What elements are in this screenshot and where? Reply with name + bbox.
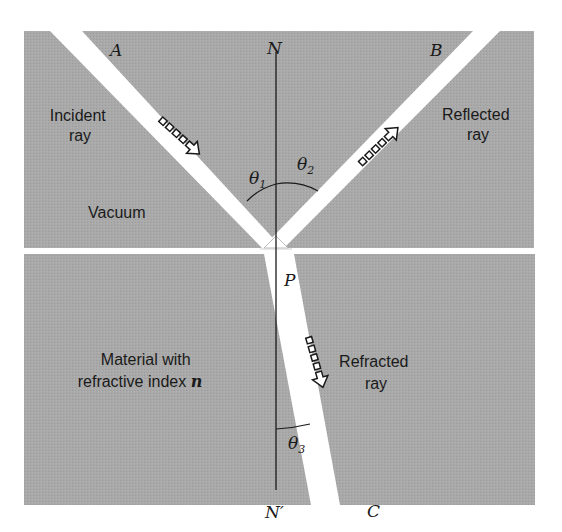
- point-label-n-prime: N′: [264, 502, 284, 522]
- point-label-c: C: [367, 501, 380, 521]
- refraction-diagram: A B N P N′ C θ1 θ2 θ3 Incident ray Refle…: [0, 0, 562, 532]
- point-label-n: N: [266, 38, 283, 58]
- point-label-a: A: [108, 40, 122, 60]
- vacuum-label: Vacuum: [88, 204, 146, 221]
- point-label-p: P: [283, 270, 296, 290]
- point-label-b: B: [429, 40, 443, 60]
